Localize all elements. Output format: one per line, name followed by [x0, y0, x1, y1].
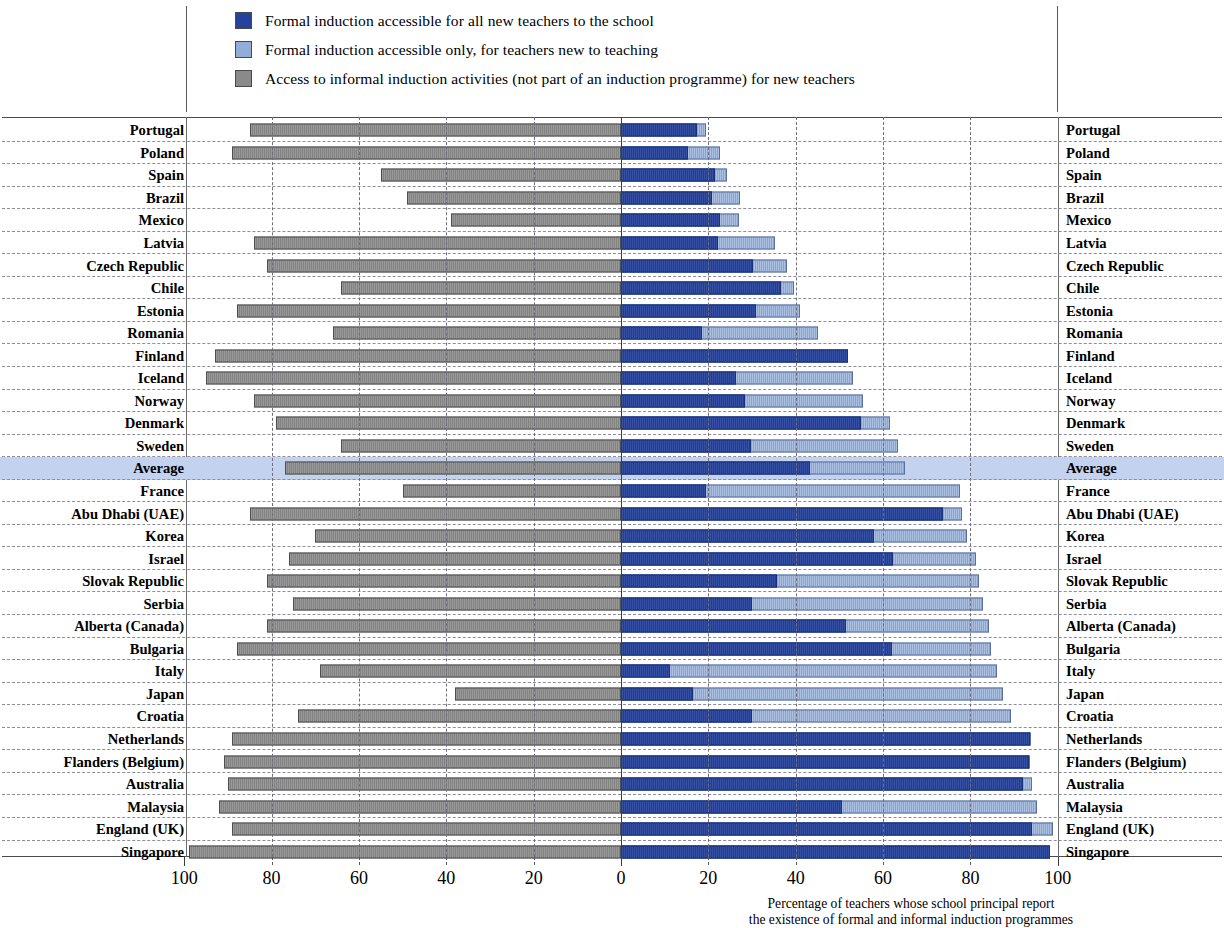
bar-formal-all-new-teachers	[621, 800, 842, 813]
row-label-left: Slovak Republic	[82, 573, 184, 590]
bar-informal-access	[333, 327, 621, 340]
chart-row: Flanders (Belgium)Flanders (Belgium)	[0, 750, 1224, 773]
axis-tick	[359, 857, 360, 865]
row-label-left: Israel	[148, 550, 184, 567]
chart-row: SwedenSweden	[0, 435, 1224, 458]
axis-tick-label: 20	[699, 868, 717, 889]
row-label-left: Czech Republic	[86, 257, 184, 274]
legend-swatch-dark-icon	[235, 12, 252, 29]
chart-row: BulgariaBulgaria	[0, 638, 1224, 661]
row-label-right: Poland	[1066, 144, 1110, 161]
row-label-right: Serbia	[1066, 595, 1107, 612]
bar-informal-access	[289, 552, 621, 565]
chart-row: Slovak RepublicSlovak Republic	[0, 570, 1224, 593]
legend-swatch-light-icon	[235, 41, 252, 58]
row-label-left: Netherlands	[108, 731, 184, 748]
chart-row: DenmarkDenmark	[0, 412, 1224, 435]
bar-formal-all-new-teachers	[621, 417, 861, 430]
axis-tick	[1058, 857, 1059, 866]
axis-tick	[272, 857, 273, 865]
bar-formal-all-new-teachers	[621, 214, 720, 227]
chart-rows: PortugalPortugalPolandPolandSpainSpainBr…	[0, 119, 1224, 863]
chart-row: CroatiaCroatia	[0, 705, 1224, 728]
legend-item-dark: Formal induction accessible for all new …	[235, 6, 1057, 35]
row-label-left: Estonia	[137, 302, 184, 319]
bar-formal-all-new-teachers	[621, 755, 1029, 768]
row-label-right: Flanders (Belgium)	[1066, 753, 1186, 770]
row-label-right: Croatia	[1066, 708, 1114, 725]
row-label-right: France	[1066, 483, 1110, 500]
bar-informal-access	[237, 304, 621, 317]
row-label-left: Poland	[140, 144, 184, 161]
bar-informal-access	[403, 485, 621, 498]
row-label-right: Korea	[1066, 528, 1105, 545]
bar-formal-all-new-teachers	[621, 124, 697, 137]
bar-informal-access	[232, 733, 621, 746]
bar-formal-all-new-teachers	[621, 823, 1032, 836]
axis-caption: Percentage of teachers whose school prin…	[621, 896, 1201, 928]
x-axis: Percentage of teachers whose school prin…	[0, 857, 1224, 926]
axis-tick	[970, 857, 971, 865]
bar-formal-all-new-teachers	[621, 642, 892, 655]
bar-formal-all-new-teachers	[621, 575, 777, 588]
row-label-left: Japan	[146, 685, 184, 702]
row-label-left: Romania	[127, 325, 184, 342]
axis-tick-label: 0	[617, 868, 626, 889]
chart-row: JapanJapan	[0, 683, 1224, 706]
chart-row: IsraelIsrael	[0, 547, 1224, 570]
chart-row: FranceFrance	[0, 480, 1224, 503]
legend-item-light: Formal induction accessible only, for te…	[235, 35, 1057, 64]
bar-formal-all-new-teachers	[621, 778, 1023, 791]
row-label-right: Latvia	[1066, 235, 1107, 252]
bar-informal-access	[254, 394, 621, 407]
bar-formal-all-new-teachers	[621, 687, 693, 700]
bar-formal-all-new-teachers	[621, 462, 810, 475]
axis-tick	[446, 857, 447, 865]
bar-formal-all-new-teachers	[621, 710, 752, 723]
row-label-left: Iceland	[138, 370, 184, 387]
row-label-right: Slovak Republic	[1066, 573, 1168, 590]
legend-label: Access to informal induction activities …	[265, 70, 855, 88]
chart-legend: Formal induction accessible for all new …	[186, 6, 1058, 112]
bar-formal-all-new-teachers	[621, 665, 670, 678]
bar-formal-all-new-teachers	[621, 394, 745, 407]
row-label-right: Malaysia	[1066, 798, 1123, 815]
row-label-left: Serbia	[143, 595, 184, 612]
row-label-right: Average	[1066, 460, 1117, 477]
row-label-right: Abu Dhabi (UAE)	[1066, 505, 1179, 522]
chart-row: SpainSpain	[0, 164, 1224, 187]
row-label-right: Israel	[1066, 550, 1102, 567]
chart-row: NorwayNorway	[0, 390, 1224, 413]
chart-row: AverageAverage	[0, 457, 1224, 480]
row-label-left: Flanders (Belgium)	[64, 753, 184, 770]
row-label-right: Portugal	[1066, 122, 1120, 139]
bar-formal-all-new-teachers	[621, 191, 712, 204]
row-label-right: Brazil	[1066, 189, 1104, 206]
row-label-right: Netherlands	[1066, 731, 1142, 748]
row-label-right: Mexico	[1066, 212, 1111, 229]
bar-formal-all-new-teachers	[621, 372, 736, 385]
axis-tick	[796, 857, 797, 865]
chart-row: RomaniaRomania	[0, 322, 1224, 345]
bar-informal-access	[224, 755, 621, 768]
bar-informal-access	[250, 124, 621, 137]
row-label-left: Brazil	[146, 189, 184, 206]
bar-informal-access	[232, 146, 621, 159]
row-label-left: Latvia	[143, 235, 184, 252]
row-label-left: Italy	[155, 663, 184, 680]
row-label-left: England (UK)	[96, 821, 184, 838]
axis-caption-line1: Percentage of teachers whose school prin…	[768, 896, 1055, 911]
bar-informal-access	[381, 169, 621, 182]
bar-formal-all-new-teachers	[621, 485, 706, 498]
chart-row: NetherlandsNetherlands	[0, 728, 1224, 751]
chart-row: MexicoMexico	[0, 209, 1224, 232]
axis-tick	[708, 857, 709, 865]
bar-informal-access	[451, 214, 621, 227]
bar-informal-access	[219, 800, 621, 813]
axis-tick-label: 40	[787, 868, 805, 889]
bar-formal-all-new-teachers	[621, 507, 943, 520]
chart-row: PortugalPortugal	[0, 119, 1224, 142]
chart-row: FinlandFinland	[0, 344, 1224, 367]
bar-informal-access	[293, 597, 621, 610]
